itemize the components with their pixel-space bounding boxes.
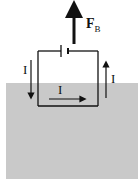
current-label-bottom: I (58, 83, 62, 96)
battery-icon (61, 45, 68, 57)
current-label-right: I (111, 72, 115, 85)
current-label-left: I (23, 63, 27, 76)
circuit-diagram (0, 0, 138, 179)
force-label: FB (86, 17, 101, 34)
circuit-loop (38, 51, 98, 106)
